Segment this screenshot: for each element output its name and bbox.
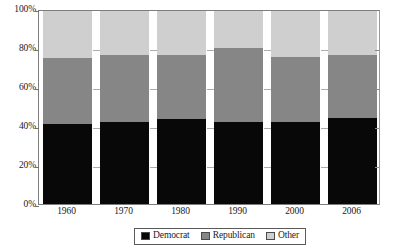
bar-2006 xyxy=(328,11,376,204)
y-axis-inner-tick-mark xyxy=(375,167,379,168)
x-axis-tick-label: 2006 xyxy=(342,207,361,217)
bar-segment-republican xyxy=(328,55,376,118)
y-axis-tick-label: 20% xyxy=(2,161,36,171)
y-axis-tick-label: 100% xyxy=(2,5,36,15)
legend-swatch-democrat xyxy=(141,232,150,240)
x-axis: 196019701980199020002006 xyxy=(38,207,380,225)
bar-segment-democrat xyxy=(43,124,91,204)
gridline-stub xyxy=(93,89,100,90)
bar-segment-republican xyxy=(100,55,148,122)
bar-2000 xyxy=(271,11,319,204)
bar-segment-democrat xyxy=(328,118,376,204)
bar-segment-democrat xyxy=(271,122,319,204)
bar-segment-democrat xyxy=(100,122,148,204)
stacked-bar-chart: 0%20%40%60%80%100% 196019701980199020002… xyxy=(0,0,394,250)
y-axis-tick-mark xyxy=(35,128,39,129)
gridline-stub xyxy=(207,167,214,168)
bar-1960 xyxy=(43,11,91,204)
y-axis-tick-label: 80% xyxy=(2,44,36,54)
gridline-stub xyxy=(264,50,271,51)
y-axis-tick-label: 0% xyxy=(2,200,36,210)
gridline-stub xyxy=(207,89,214,90)
y-axis-inner-tick-mark xyxy=(375,89,379,90)
bar-1970 xyxy=(100,11,148,204)
bar-1980 xyxy=(157,11,205,204)
y-axis-tick-mark xyxy=(35,50,39,51)
x-axis-tick-label: 1970 xyxy=(114,207,133,217)
y-axis-tick-mark xyxy=(35,89,39,90)
bar-segment-republican xyxy=(157,55,205,119)
bar-segment-democrat xyxy=(157,119,205,204)
bar-1990 xyxy=(214,11,262,204)
y-axis: 0%20%40%60%80%100% xyxy=(0,0,36,250)
bar-segment-democrat xyxy=(214,122,262,204)
bar-segment-other xyxy=(157,11,205,55)
gridline-stub xyxy=(321,89,328,90)
gridline-stub xyxy=(264,128,271,129)
bar-segment-other xyxy=(43,11,91,58)
gridline-stub xyxy=(93,167,100,168)
legend-swatch-other xyxy=(266,232,275,240)
gridline-stub xyxy=(264,167,271,168)
bar-segment-republican xyxy=(214,48,262,122)
gridline-stub xyxy=(321,128,328,129)
legend-label: Other xyxy=(278,231,299,241)
gridline-stub xyxy=(321,167,328,168)
gridline-stub xyxy=(150,50,157,51)
y-axis-tick-label: 40% xyxy=(2,122,36,132)
bar-group xyxy=(39,11,379,204)
legend-swatch-republican xyxy=(201,232,210,240)
gridline-stub xyxy=(93,50,100,51)
gridline-stub xyxy=(150,167,157,168)
y-axis-inner-tick-mark xyxy=(375,50,379,51)
legend-item-other: Other xyxy=(266,231,299,241)
bar-segment-republican xyxy=(271,57,319,122)
gridline-stub xyxy=(207,50,214,51)
gridline-stub xyxy=(207,128,214,129)
chart-legend: DemocratRepublicanOther xyxy=(134,228,306,245)
legend-item-democrat: Democrat xyxy=(141,231,190,241)
legend-label: Democrat xyxy=(153,231,190,241)
legend-item-republican: Republican xyxy=(201,231,255,241)
gridline-stub xyxy=(150,89,157,90)
x-axis-tick-label: 1960 xyxy=(57,207,76,217)
bar-segment-other xyxy=(328,11,376,55)
y-axis-inner-tick-mark xyxy=(375,128,379,129)
bar-segment-other xyxy=(214,11,262,48)
x-axis-tick-label: 2000 xyxy=(285,207,304,217)
bar-segment-other xyxy=(100,11,148,55)
legend-label: Republican xyxy=(213,231,255,241)
y-axis-tick-mark xyxy=(35,11,39,12)
bar-segment-republican xyxy=(43,58,91,124)
y-axis-tick-mark xyxy=(35,167,39,168)
x-axis-tick-label: 1980 xyxy=(171,207,190,217)
gridline-stub xyxy=(93,128,100,129)
bar-segment-other xyxy=(271,11,319,57)
gridline-stub xyxy=(264,89,271,90)
gridline-stub xyxy=(150,128,157,129)
y-axis-tick-label: 60% xyxy=(2,83,36,93)
plot-area xyxy=(38,10,380,205)
x-axis-tick-label: 1990 xyxy=(228,207,247,217)
gridline-stub xyxy=(321,50,328,51)
